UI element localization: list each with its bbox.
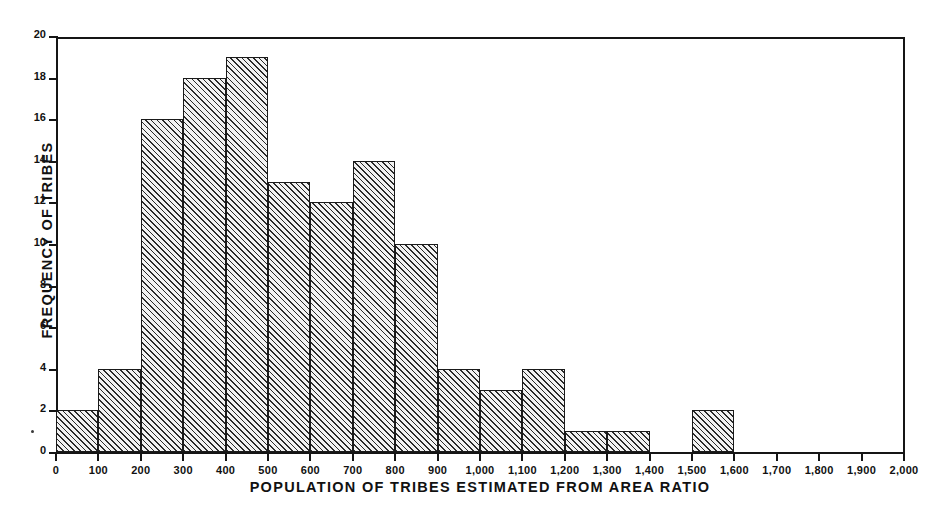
histogram-bar: [522, 369, 564, 452]
x-axis-tick: 1,700: [776, 452, 778, 461]
histogram-bar: [310, 202, 352, 452]
x-axis-tick-label: 500: [258, 464, 277, 476]
y-axis-tick: 12: [49, 202, 58, 204]
y-axis-tick: 10: [49, 244, 58, 246]
y-axis-tick: 20: [49, 36, 58, 38]
x-axis-tick: 1,200: [564, 452, 566, 461]
y-axis-tick-label: 8: [40, 278, 46, 290]
x-axis-tick-label: 800: [386, 464, 405, 476]
histogram-bar: [268, 182, 310, 452]
histogram-bar: [183, 78, 225, 452]
histogram-bar: [141, 119, 183, 452]
x-axis-tick-label: 400: [216, 464, 235, 476]
y-axis-tick-label: 2: [40, 402, 46, 414]
histogram-bar: [353, 161, 395, 452]
x-axis-tick-label: 1,400: [635, 464, 664, 476]
x-axis-tick: 200: [140, 452, 142, 461]
x-axis-tick: 1,600: [733, 452, 735, 461]
y-axis-tick-label: 14: [34, 153, 46, 165]
x-axis-tick: 1,800: [818, 452, 820, 461]
x-axis-title: POPULATION OF TRIBES ESTIMATED FROM AREA…: [56, 479, 904, 495]
axis-line-top: [56, 37, 905, 39]
y-axis-tick-label: 12: [34, 194, 46, 206]
y-axis-tick: 14: [49, 161, 58, 163]
y-axis-tick-label: 18: [34, 70, 46, 82]
y-axis-tick-label: 4: [40, 361, 46, 373]
x-axis-tick-label: 1,700: [762, 464, 791, 476]
x-axis-tick-label: 1,800: [805, 464, 834, 476]
histogram-bar: [438, 369, 480, 452]
histogram-bar: [98, 369, 140, 452]
x-axis-tick-label: 600: [301, 464, 320, 476]
y-axis-tick: 4: [49, 369, 58, 371]
x-axis-tick-label: 1,100: [508, 464, 537, 476]
x-axis-tick-label: 300: [174, 464, 193, 476]
y-axis-tick: 6: [49, 327, 58, 329]
y-axis-tick-label: 0: [40, 444, 46, 456]
histogram-bar: [226, 57, 268, 452]
x-axis-tick-label: 0: [53, 464, 59, 476]
x-axis-tick: 1,300: [606, 452, 608, 461]
x-axis-tick-label: 1,600: [720, 464, 749, 476]
histogram-figure: FREQUENCY OF TRIBES POPULATION OF TRIBES…: [0, 0, 944, 514]
x-axis-tick: 0: [55, 452, 57, 461]
y-axis-tick-label: 6: [40, 319, 46, 331]
y-axis-tick-label: 20: [34, 28, 46, 40]
histogram-bar: [692, 410, 734, 452]
axis-line-right: [903, 37, 905, 454]
x-axis-tick: 1,900: [861, 452, 863, 461]
x-axis-tick: 600: [309, 452, 311, 461]
x-axis-tick-label: 1,300: [593, 464, 622, 476]
x-axis-tick-label: 1,000: [465, 464, 494, 476]
x-axis-tick: 700: [352, 452, 354, 461]
x-axis-tick-label: 1,900: [847, 464, 876, 476]
plot-area: 02468101214161820 0100200300400500600700…: [56, 37, 904, 453]
y-axis-tick-label: 10: [34, 236, 46, 248]
x-axis-tick: 1,500: [691, 452, 693, 461]
scan-speck: [31, 430, 34, 433]
histogram-bar: [480, 390, 522, 452]
x-axis-tick-label: 200: [131, 464, 150, 476]
x-axis-tick-label: 700: [343, 464, 362, 476]
histogram-bar: [607, 431, 649, 452]
x-axis-tick: 1,100: [521, 452, 523, 461]
x-axis-tick: 400: [225, 452, 227, 461]
histogram-bar: [56, 410, 98, 452]
y-axis-tick: 2: [49, 410, 58, 412]
x-axis-tick-label: 2,000: [889, 464, 918, 476]
histogram-bar: [395, 244, 437, 452]
x-axis-tick: 2,000: [903, 452, 905, 461]
y-axis-tick-label: 16: [34, 111, 46, 123]
x-axis-tick: 100: [97, 452, 99, 461]
x-axis-tick: 800: [394, 452, 396, 461]
y-axis-tick: 8: [49, 286, 58, 288]
x-axis-tick: 1,400: [649, 452, 651, 461]
x-axis-tick: 300: [182, 452, 184, 461]
x-axis-tick-label: 1,500: [677, 464, 706, 476]
x-axis-tick-label: 900: [428, 464, 447, 476]
x-axis-tick-label: 1,200: [550, 464, 579, 476]
histogram-bar: [565, 431, 607, 452]
y-axis-tick: 16: [49, 119, 58, 121]
y-axis-tick: 18: [49, 78, 58, 80]
x-axis-tick: 1,000: [479, 452, 481, 461]
x-axis-tick: 900: [437, 452, 439, 461]
x-axis-tick: 500: [267, 452, 269, 461]
x-axis-tick-label: 100: [89, 464, 108, 476]
